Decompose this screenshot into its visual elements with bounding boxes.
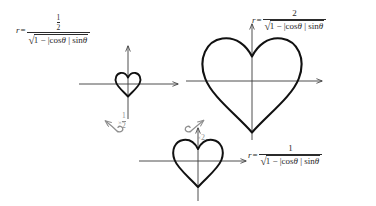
formula-bottom-right: r= 1 √1 − |cosθ | sinθ	[248, 143, 322, 169]
scale-half-denominator: 2	[122, 122, 126, 130]
formula-top-right-fraction: 2 √1 − |cosθ | sinθ	[263, 8, 327, 34]
formula-top-left-lhs: r	[16, 25, 20, 35]
formula-top-left-denominator: √1 − |cosθ | sinθ	[27, 34, 91, 47]
scale-two-label: ×2	[197, 127, 205, 143]
small-heart-plot	[79, 46, 178, 119]
formula-top-right-relation: =	[256, 15, 263, 25]
numerator-half-bottom: 2	[57, 24, 61, 32]
formula-top-right: r= 2 √1 − |cosθ | sinθ	[252, 8, 326, 34]
numerator-half-fraction: 12	[57, 14, 61, 32]
formula-top-right-lhs: r	[252, 15, 256, 25]
formula-bottom-right-denominator: √1 − |cosθ | sinθ	[259, 155, 323, 168]
formula-bottom-right-relation: =	[252, 150, 259, 160]
scale-two-factor: 2	[201, 133, 205, 142]
radical-body: 1 − |cosθ | sinθ	[270, 20, 325, 32]
formula-top-left-fraction: 12 √1 − |cosθ | sinθ	[27, 14, 91, 47]
base-heart-plot	[139, 128, 246, 201]
scale-half-label: ×12	[118, 112, 126, 130]
radical-top-right: √1 − |cosθ | sinθ	[265, 20, 325, 33]
radical-bottom-right: √1 − |cosθ | sinθ	[261, 155, 321, 168]
diagram-canvas: r= 12 √1 − |cosθ | sinθ r= 2 √1 − |cosθ …	[0, 0, 376, 206]
numerator-half-top: 1	[57, 14, 61, 22]
radical-body: 1 − |cosθ | sinθ	[34, 34, 89, 46]
formula-top-right-denominator: √1 − |cosθ | sinθ	[263, 20, 327, 33]
radical-body: 1 − |cosθ | sinθ	[266, 155, 321, 167]
formula-top-right-numerator: 2	[263, 8, 327, 18]
formula-bottom-right-numerator: 1	[259, 143, 323, 153]
formula-top-left: r= 12 √1 − |cosθ | sinθ	[16, 14, 90, 47]
scale-half-numerator: 1	[122, 112, 126, 120]
formula-bottom-right-fraction: 1 √1 − |cosθ | sinθ	[259, 143, 323, 169]
large-heart-plot	[186, 24, 322, 140]
scale-half-fraction: 12	[122, 112, 126, 130]
formula-top-left-relation: =	[20, 25, 27, 35]
formula-top-left-numerator: 12	[27, 14, 91, 32]
formula-bottom-right-lhs: r	[248, 150, 252, 160]
radical-top-left: √1 − |cosθ | sinθ	[29, 34, 89, 47]
